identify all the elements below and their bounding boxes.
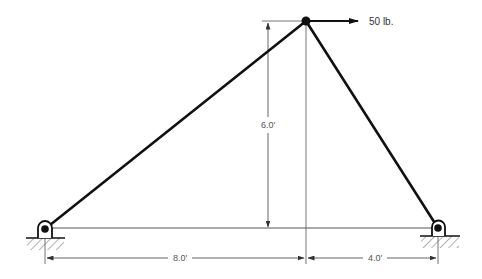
height-label: 6.0' — [261, 120, 276, 130]
right-span-label: 4.0' — [368, 253, 383, 263]
load-label: 50 lb. — [369, 16, 393, 27]
left-pin-support-icon — [26, 221, 65, 250]
truss-diagram: 6.0' 8.0' 4.0' 50 lb. — [0, 0, 482, 279]
span-dimensions: 8.0' 4.0' — [47, 253, 436, 263]
left-span-label: 8.0' — [173, 253, 188, 263]
truss-members — [45, 21, 438, 229]
right-pin-support-icon — [420, 221, 460, 249]
load-arrow: 50 lb. — [308, 16, 393, 27]
right-member — [306, 21, 438, 228]
